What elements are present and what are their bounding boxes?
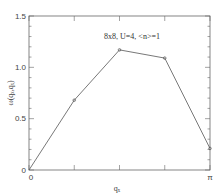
data-markers xyxy=(73,49,211,150)
chart-annotation: 8x8, U=4, <n>=1 xyxy=(104,32,160,41)
y-tick-label-0: 0 xyxy=(22,166,27,175)
x-tick-label-0: 0 xyxy=(29,173,34,182)
y-tick-label-0.5: 0.5 xyxy=(15,114,27,123)
chart: 0 0.5 1.0 1.5 0 π qₓ ω(qₓ,qₓ) 8x8, U=4, … xyxy=(0,0,219,193)
data-series-line xyxy=(29,50,210,170)
x-tick-label-pi: π xyxy=(207,173,213,182)
y-tick-label-1.0: 1.0 xyxy=(15,63,27,72)
x-axis-label: qₓ xyxy=(114,184,121,193)
y-tick-label-1.5: 1.5 xyxy=(15,12,27,21)
y-axis-label: ω(qₓ,qₓ) xyxy=(6,80,15,106)
